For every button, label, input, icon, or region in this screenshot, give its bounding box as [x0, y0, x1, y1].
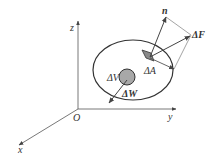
x-axis — [19, 109, 78, 145]
y-axis-label: y — [167, 111, 173, 122]
x-axis-label: x — [17, 144, 23, 155]
force-parallelogram — [150, 17, 191, 69]
origin-label: O — [73, 112, 80, 123]
normal-label: n — [162, 5, 168, 16]
volume-element-label: ΔV — [106, 72, 121, 83]
diagram-canvas: z y x O ΔV ΔW ΔA n ΔF — [0, 0, 219, 166]
weight-label: ΔW — [121, 88, 138, 99]
surface-element-label: ΔA — [143, 65, 157, 76]
volume-element-circle — [119, 69, 135, 85]
force-vector-arrow — [150, 36, 190, 57]
force-label: ΔF — [191, 29, 205, 40]
z-axis-label: z — [69, 22, 74, 33]
